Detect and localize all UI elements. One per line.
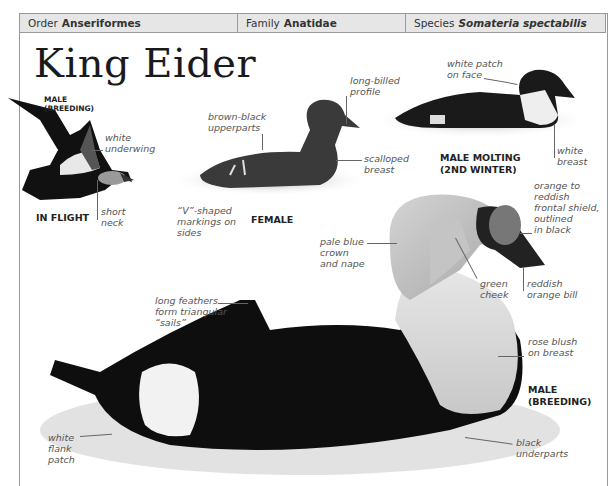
- label-line: reddish: [534, 191, 599, 202]
- label-line: on breast: [528, 347, 577, 358]
- label-v-shaped-markings: “V”-shaped markings on sides: [177, 205, 236, 238]
- label-line: breast: [364, 164, 409, 175]
- label-scalloped-breast: scalloped breast: [364, 153, 409, 175]
- label-short-neck: short neck: [101, 206, 125, 228]
- leader-line: [218, 303, 248, 304]
- label-line: brown-black: [208, 111, 266, 122]
- label-triangular-sails: long feathers form triangular “sails”: [155, 295, 227, 328]
- leader-line: [346, 96, 347, 124]
- leader-line: [367, 243, 397, 244]
- label-line: “sails”: [155, 317, 227, 328]
- label-line: black: [516, 437, 568, 448]
- caption-line: (BREEDING): [528, 396, 591, 408]
- label-line: frontal shield,: [534, 202, 599, 213]
- label-line: pale blue: [320, 236, 365, 247]
- label-line: scalloped: [364, 153, 409, 164]
- label-white-underwing: white underwing: [105, 132, 155, 154]
- label-line: long-billed: [350, 75, 400, 86]
- label-line: markings on: [177, 216, 236, 227]
- female-caption: FEMALE: [251, 214, 293, 226]
- leader-line: [520, 233, 532, 234]
- label-white-flank-patch: white flank patch: [48, 432, 75, 465]
- label-line: and nape: [320, 258, 365, 269]
- label-line: outlined: [534, 213, 599, 224]
- flight-caption: IN FLIGHT: [36, 212, 89, 224]
- male-breeding-caption: MALE (BREEDING): [528, 384, 591, 407]
- label-reddish-orange-bill: reddish orange bill: [527, 278, 577, 300]
- label-line: reddish: [527, 278, 577, 289]
- label-line: underparts: [516, 448, 568, 459]
- label-rose-blush: rose blush on breast: [528, 336, 577, 358]
- label-line: underwing: [105, 143, 155, 154]
- label-line: breast: [557, 156, 587, 167]
- label-line: neck: [101, 217, 125, 228]
- label-pale-blue-crown: pale blue crown and nape: [320, 236, 365, 269]
- label-line: white: [48, 432, 75, 443]
- label-line: white: [105, 132, 155, 143]
- label-black-underparts: black underparts: [516, 437, 568, 459]
- leader-line: [336, 160, 362, 161]
- leader-line: [262, 134, 263, 150]
- leader-line: [97, 180, 98, 220]
- label-line: white: [557, 145, 587, 156]
- label-line: sides: [177, 227, 236, 238]
- flight-caption-top: MALE (BREEDING): [44, 95, 94, 113]
- label-green-cheek: green cheek: [480, 278, 508, 300]
- label-line: profile: [350, 86, 400, 97]
- label-white-breast: white breast: [557, 145, 587, 167]
- leader-line: [554, 124, 555, 158]
- label-line: cheek: [480, 289, 508, 300]
- label-line: form triangular: [155, 306, 227, 317]
- label-line: rose blush: [528, 336, 577, 347]
- molting-bird-illustration: [370, 70, 590, 138]
- label-line: orange bill: [527, 289, 577, 300]
- label-line: patch: [48, 454, 75, 465]
- leader-line: [498, 356, 524, 357]
- label-white-patch-on-face: white patch on face: [447, 58, 503, 80]
- label-line: orange to: [534, 180, 599, 191]
- molting-caption: MALE MOLTING (2ND WINTER): [440, 152, 520, 175]
- leader-line: [523, 267, 524, 291]
- label-line: flank: [48, 443, 75, 454]
- label-line: in black: [534, 224, 599, 235]
- caption-line: MALE: [528, 384, 591, 396]
- label-line: green: [480, 278, 508, 289]
- label-line: long feathers: [155, 295, 227, 306]
- caption-line: MALE: [44, 95, 94, 104]
- label-line: short: [101, 206, 125, 217]
- female-bird-illustration: [170, 100, 370, 196]
- label-line: on face: [447, 69, 503, 80]
- caption-line: (BREEDING): [44, 104, 94, 113]
- caption-line: MALE MOLTING: [440, 152, 520, 164]
- label-frontal-shield: orange to reddish frontal shield, outlin…: [534, 180, 599, 235]
- label-line: upperparts: [208, 122, 266, 133]
- label-line: “V”-shaped: [177, 205, 236, 216]
- label-brown-black-upperparts: brown-black upperparts: [208, 111, 266, 133]
- leader-line: [92, 150, 103, 151]
- caption-line: (2ND WINTER): [440, 164, 520, 176]
- label-line: white patch: [447, 58, 503, 69]
- male-breeding-bird-illustration: [40, 195, 560, 475]
- label-line: crown: [320, 247, 365, 258]
- label-long-billed-profile: long-billed profile: [350, 75, 400, 97]
